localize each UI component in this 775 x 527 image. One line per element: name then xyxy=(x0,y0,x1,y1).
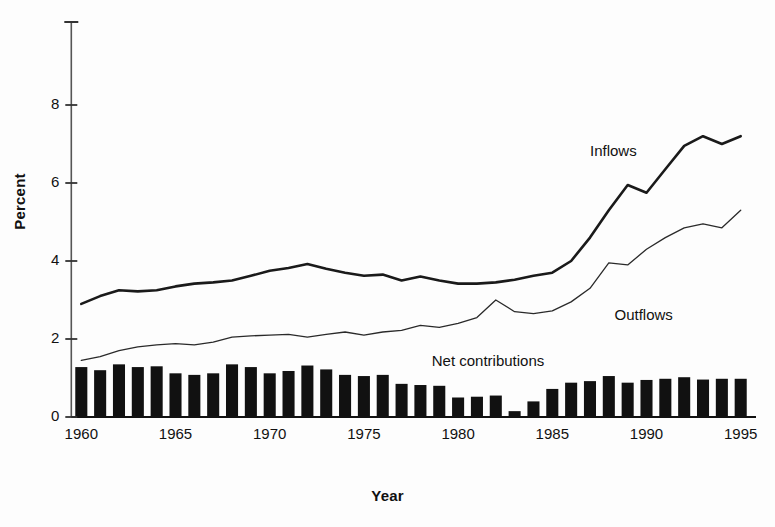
bar-1962 xyxy=(113,364,125,417)
bar-1987 xyxy=(584,381,596,417)
bar-1964 xyxy=(151,366,163,417)
y-tick-label-4: 4 xyxy=(29,251,59,268)
bar-1985 xyxy=(546,389,558,417)
bar-1994 xyxy=(716,379,728,417)
bar-1995 xyxy=(735,379,747,417)
bar-1991 xyxy=(659,379,671,417)
x-tick-label-1975: 1975 xyxy=(334,425,394,442)
bar-1970 xyxy=(264,373,276,417)
bar-1967 xyxy=(207,373,219,417)
x-tick-label-1960: 1960 xyxy=(51,425,111,442)
y-tick-label-6: 6 xyxy=(29,173,59,190)
x-tick-label-1985: 1985 xyxy=(522,425,582,442)
outflows-label: Outflows xyxy=(614,306,672,323)
bar-1976 xyxy=(377,375,389,417)
bar-1963 xyxy=(132,367,144,417)
bar-1982 xyxy=(490,396,502,417)
x-tick-label-1970: 1970 xyxy=(240,425,300,442)
y-tick-label-8: 8 xyxy=(29,95,59,112)
bar-1981 xyxy=(471,397,483,417)
x-tick-label-1965: 1965 xyxy=(146,425,206,442)
bar-1989 xyxy=(622,383,634,417)
x-tick-label-1990: 1990 xyxy=(616,425,676,442)
bar-1984 xyxy=(527,401,539,417)
bar-1969 xyxy=(245,367,257,417)
bar-1971 xyxy=(283,371,295,417)
bar-1993 xyxy=(697,380,709,417)
bar-1975 xyxy=(358,376,370,417)
bar-1974 xyxy=(339,375,351,417)
bar-1968 xyxy=(226,364,238,417)
y-tick-label-0: 0 xyxy=(29,407,59,424)
inflows-label: Inflows xyxy=(590,142,637,159)
bar-1960 xyxy=(75,367,87,417)
bar-1980 xyxy=(452,398,464,418)
inflows-line xyxy=(81,136,740,304)
bar-1992 xyxy=(678,377,690,417)
x-tick-label-1995: 1995 xyxy=(711,425,771,442)
bars-group xyxy=(75,364,746,417)
bar-1973 xyxy=(320,369,332,417)
bar-1979 xyxy=(433,386,445,417)
net-contributions-label: Net contributions xyxy=(432,352,545,369)
bar-1990 xyxy=(640,380,652,417)
bar-1986 xyxy=(565,383,577,417)
bar-1961 xyxy=(94,370,106,417)
x-axis-label: Year xyxy=(0,487,775,504)
bar-1988 xyxy=(603,376,615,417)
axes-group xyxy=(64,22,756,417)
bar-1966 xyxy=(188,375,200,417)
bar-1977 xyxy=(396,384,408,417)
bar-1965 xyxy=(169,373,181,417)
plot-area xyxy=(0,0,775,527)
bar-1978 xyxy=(414,385,426,417)
y-axis-label: Percent xyxy=(11,157,28,247)
x-tick-label-1980: 1980 xyxy=(428,425,488,442)
chart-figure: Percent Year 02468 196019651970197519801… xyxy=(0,0,775,527)
y-tick-label-2: 2 xyxy=(29,329,59,346)
bar-1972 xyxy=(301,366,313,417)
